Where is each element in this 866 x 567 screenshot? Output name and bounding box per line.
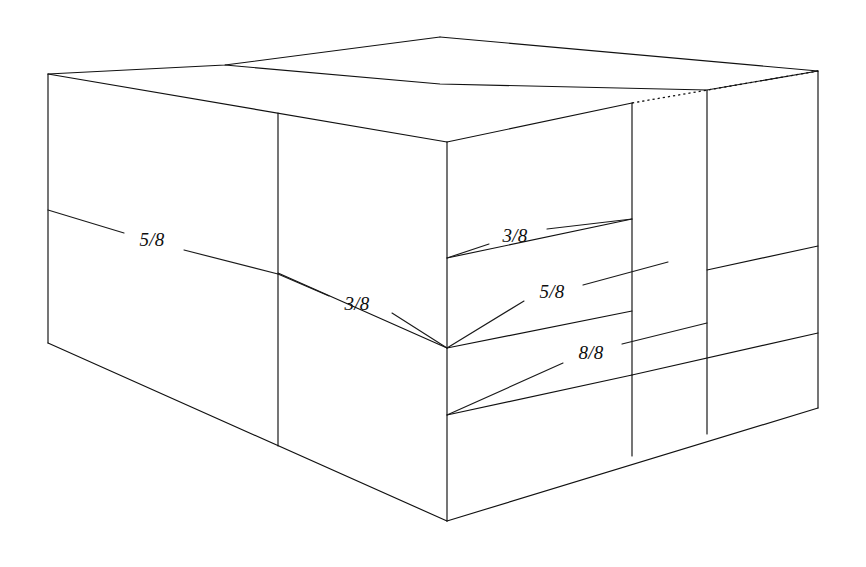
dimension-label-front-left-face: 3/8 [345,293,370,315]
dimension-label-left-face: 5/8 [140,229,165,251]
dimension-label-front-right-lower: 8/8 [579,342,604,364]
dimension-label-front-right-upper: 3/8 [503,225,528,247]
box-diagram-svg [0,0,866,567]
dimension-label-front-right-middle: 5/8 [540,281,565,303]
figure-root: 5/8 3/8 3/8 5/8 8/8 [0,0,866,567]
